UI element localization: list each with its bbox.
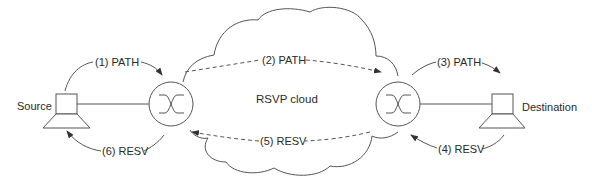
rsvp-cloud-shape (183, 7, 398, 175)
arrow-4-resv (482, 135, 504, 149)
rsvp-diagram: (1) PATH (2) PATH (3) PATH (4) RESV (5) … (0, 0, 592, 181)
label-6-resv: (6) RESV (102, 145, 149, 157)
router-right (376, 82, 420, 126)
arrow-5-resv (305, 132, 370, 141)
destination-host (479, 94, 525, 128)
label-destination: Destination (522, 101, 577, 113)
label-5-resv: (5) RESV (260, 135, 307, 147)
label-2-path: (2) PATH (262, 54, 306, 66)
arrow-3-path (412, 62, 436, 75)
label-3-path: (3) PATH (437, 56, 481, 68)
destination-base-icon (479, 114, 525, 128)
destination-monitor-icon (492, 94, 513, 114)
label-1-path: (1) PATH (95, 56, 139, 68)
router-left (149, 82, 193, 126)
source-base-icon (43, 114, 90, 128)
arrow-2-path-head (306, 60, 381, 72)
diagram-canvas: (1) PATH (2) PATH (3) PATH (4) RESV (5) … (0, 0, 592, 181)
arrow-5-resv-head (192, 132, 259, 141)
arrow-3-path-head (482, 63, 500, 73)
label-source: Source (17, 100, 52, 112)
source-monitor-icon (56, 94, 77, 114)
label-4-resv: (4) RESV (438, 143, 485, 155)
arrow-1-path (65, 62, 93, 91)
label-rsvp-cloud: RSVP cloud (256, 93, 318, 105)
arrow-1-path-head (141, 62, 162, 75)
arrow-6-resv-head (67, 131, 101, 151)
arrow-4-resv-head (411, 135, 437, 148)
